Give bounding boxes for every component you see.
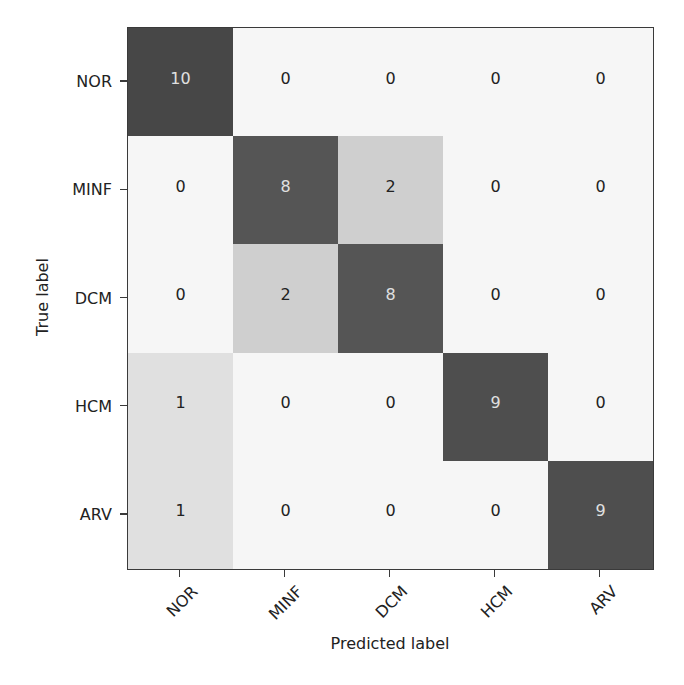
x-tick-mark — [284, 570, 286, 577]
x-tick-label: NOR — [162, 582, 201, 621]
matrix-cell: 0 — [443, 136, 548, 244]
matrix-cell: 1 — [128, 353, 233, 461]
y-tick-label: DCM — [75, 288, 112, 307]
confusion-matrix-grid: 10000008200028001009010009 — [127, 27, 654, 570]
y-tick-mark — [120, 513, 127, 515]
y-tick-mark — [120, 405, 127, 407]
x-tick-label: HCM — [476, 582, 516, 622]
matrix-cell: 0 — [128, 136, 233, 244]
matrix-cell: 0 — [233, 28, 338, 136]
y-tick-mark — [120, 189, 127, 191]
matrix-cell: 9 — [548, 461, 653, 569]
matrix-cell: 0 — [548, 244, 653, 352]
y-tick-mark — [120, 297, 127, 299]
matrix-cell: 0 — [128, 244, 233, 352]
matrix-cell: 0 — [548, 28, 653, 136]
matrix-cell: 0 — [338, 353, 443, 461]
y-tick-mark — [120, 80, 127, 82]
matrix-cell: 0 — [338, 461, 443, 569]
matrix-cell: 2 — [233, 244, 338, 352]
x-tick-mark — [494, 570, 496, 577]
x-axis-title: Predicted label — [331, 634, 450, 653]
x-tick-label: DCM — [371, 582, 411, 622]
matrix-cell: 8 — [338, 244, 443, 352]
y-tick-label: NOR — [76, 72, 112, 91]
y-tick-label: HCM — [75, 396, 112, 415]
matrix-cell: 2 — [338, 136, 443, 244]
confusion-matrix-figure: 10000008200028001009010009 NORMINFDCMHCM… — [0, 0, 684, 685]
matrix-cell: 0 — [443, 28, 548, 136]
x-tick-mark — [599, 570, 601, 577]
x-tick-mark — [389, 570, 391, 577]
y-tick-label: MINF — [72, 180, 112, 199]
matrix-cell: 0 — [548, 136, 653, 244]
x-tick-mark — [179, 570, 181, 577]
matrix-cell: 10 — [128, 28, 233, 136]
matrix-cell: 9 — [443, 353, 548, 461]
y-tick-label: ARV — [80, 504, 112, 523]
matrix-cell: 0 — [233, 461, 338, 569]
matrix-cell: 8 — [233, 136, 338, 244]
matrix-cell: 0 — [443, 244, 548, 352]
x-tick-label: ARV — [585, 582, 621, 618]
matrix-cell: 0 — [548, 353, 653, 461]
x-tick-label: MINF — [264, 582, 306, 624]
y-axis-title: True label — [33, 258, 52, 336]
matrix-cell: 0 — [233, 353, 338, 461]
matrix-cell: 1 — [128, 461, 233, 569]
matrix-cell: 0 — [443, 461, 548, 569]
matrix-cell: 0 — [338, 28, 443, 136]
